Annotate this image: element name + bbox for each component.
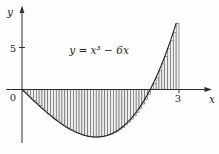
riemann-rect xyxy=(105,90,108,136)
riemann-rect xyxy=(42,90,45,109)
function-plot: y x 5 0 3 y = x³ − 6x xyxy=(0,0,219,154)
riemann-rect xyxy=(125,90,128,125)
function-equation-label: y = x³ − 6x xyxy=(68,44,129,56)
riemann-rect xyxy=(33,90,36,101)
riemann-rect xyxy=(85,90,88,136)
riemann-rect xyxy=(162,64,165,90)
riemann-rect xyxy=(113,90,116,133)
y-axis-arrow-icon xyxy=(20,6,25,14)
riemann-rect xyxy=(79,90,82,134)
riemann-rect xyxy=(71,90,74,130)
riemann-rect xyxy=(159,71,162,90)
riemann-rect xyxy=(108,90,111,136)
riemann-rect xyxy=(62,90,65,125)
riemann-rect xyxy=(119,90,122,130)
riemann-rect xyxy=(39,90,42,106)
origin-label: 0 xyxy=(10,92,16,103)
riemann-rect xyxy=(48,90,51,114)
riemann-rect xyxy=(73,90,76,132)
riemann-rect xyxy=(28,90,31,95)
riemann-rect xyxy=(99,90,102,137)
y-axis-label: y xyxy=(6,6,14,18)
riemann-rect xyxy=(76,90,79,133)
riemann-rect xyxy=(31,90,34,98)
x-axis-label: x xyxy=(209,93,215,105)
riemann-rect xyxy=(36,90,39,104)
riemann-rect xyxy=(91,90,94,137)
riemann-rect xyxy=(156,77,159,89)
riemann-rect xyxy=(59,90,62,123)
riemann-rect xyxy=(116,90,119,132)
riemann-rect xyxy=(176,23,179,89)
y-tick-label-5: 5 xyxy=(10,43,16,54)
x-tick-label-3: 3 xyxy=(175,93,181,104)
riemann-rect xyxy=(168,49,171,90)
riemann-rect xyxy=(102,90,105,137)
riemann-rect xyxy=(122,90,125,128)
riemann-rect xyxy=(53,90,56,118)
riemann-rect xyxy=(165,57,168,90)
riemann-rect xyxy=(51,90,54,116)
riemann-rect xyxy=(65,90,68,127)
riemann-rect xyxy=(68,90,71,128)
riemann-rectangles xyxy=(25,23,179,137)
riemann-rect xyxy=(128,90,131,123)
riemann-rect xyxy=(45,90,48,111)
riemann-rect xyxy=(110,90,113,135)
riemann-rect xyxy=(96,90,99,138)
riemann-rect xyxy=(56,90,59,121)
riemann-rect xyxy=(82,90,85,135)
riemann-rect xyxy=(153,83,156,89)
riemann-rect xyxy=(130,90,133,120)
x-axis-arrow-icon xyxy=(205,87,213,92)
riemann-rect xyxy=(93,90,96,137)
riemann-rect xyxy=(170,41,173,90)
riemann-sum-figure: y x 5 0 3 y = x³ − 6x xyxy=(0,0,219,154)
riemann-rect xyxy=(173,32,176,89)
riemann-rect xyxy=(88,90,91,137)
